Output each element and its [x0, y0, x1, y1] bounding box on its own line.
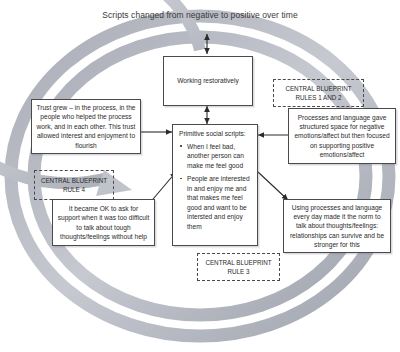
node-became-ok[interactable]: It became OK to ask for support when it … — [52, 199, 155, 246]
node-processes-and-language[interactable]: Processes and language gave structured s… — [288, 108, 396, 164]
label-central-blueprint-rule-4: CENTRAL BLUEPRINT RULE 4 — [34, 170, 114, 200]
diagram-canvas: Scripts changed from negative to positiv… — [0, 0, 400, 352]
node-using-processes[interactable]: Using processes and language every day m… — [283, 199, 391, 253]
node-primitive-social-scripts[interactable]: Primitive social scripts: When I feel ba… — [172, 124, 258, 246]
center-bullet-list: When I feel bad, another person can make… — [178, 142, 252, 232]
label-central-blueprint-rules-1-and-2: CENTRAL BLUEPRINT RULES 1 AND 2 — [273, 79, 364, 107]
center-header: Primitive social scripts: — [179, 129, 252, 139]
node-working-restoratively[interactable]: Working restoratively — [163, 56, 253, 106]
label-central-blueprint-rule-3: CENTRAL BLUEPRINT RULE 3 — [197, 253, 280, 281]
diagram-title: Scripts changed from negative to positiv… — [0, 10, 400, 20]
list-item: People are interested in and enjoy me an… — [178, 174, 252, 231]
list-item: When I feel bad, another person can make… — [178, 142, 252, 171]
node-trust-grew[interactable]: Trust grew – in the process, in the peop… — [31, 99, 141, 154]
